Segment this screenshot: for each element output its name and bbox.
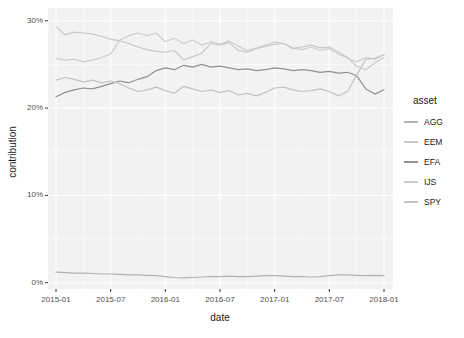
legend-item-label: EFA: [424, 158, 440, 167]
legend-item-AGG: AGG: [404, 112, 443, 132]
x-tick-label: 2015-01: [41, 296, 70, 304]
y-tick-label: 10%: [9, 191, 43, 199]
legend-item-label: SPY: [424, 198, 441, 207]
legend-item-IJS: IJS: [404, 172, 443, 192]
legend-swatch-EFA: [404, 161, 418, 163]
x-tick-label: 2016-01: [151, 296, 180, 304]
legend-swatch-EEM: [404, 141, 418, 143]
legend-items: AGGEEMEFAIJSSPY: [404, 112, 443, 212]
legend: asset AGGEEMEFAIJSSPY: [404, 95, 443, 212]
y-tick-label: 30%: [9, 17, 43, 25]
legend-item-label: EEM: [424, 138, 442, 147]
legend-swatch-AGG: [404, 121, 418, 123]
y-tick-label: 20%: [9, 104, 43, 112]
y-tick-label: 0%: [9, 279, 43, 287]
chart-canvas: [0, 0, 464, 338]
x-tick-label: 2017-01: [260, 296, 289, 304]
legend-title: asset: [413, 95, 443, 107]
line-chart-figure: 0%10%20%30% 2015-012015-072016-012016-07…: [0, 0, 464, 338]
legend-swatch-SPY: [404, 201, 418, 203]
x-tick-label: 2017-07: [315, 296, 344, 304]
legend-item-label: AGG: [424, 118, 443, 127]
x-axis-title: date: [210, 313, 229, 323]
legend-item-label: IJS: [424, 178, 436, 187]
legend-item-EEM: EEM: [404, 132, 443, 152]
x-tick-label: 2018-01: [369, 296, 398, 304]
legend-swatch-IJS: [404, 181, 418, 183]
legend-item-SPY: SPY: [404, 192, 443, 212]
y-axis-title: contribution: [8, 117, 18, 187]
legend-item-EFA: EFA: [404, 152, 443, 172]
x-tick-label: 2015-07: [96, 296, 125, 304]
x-tick-label: 2016-07: [205, 296, 234, 304]
